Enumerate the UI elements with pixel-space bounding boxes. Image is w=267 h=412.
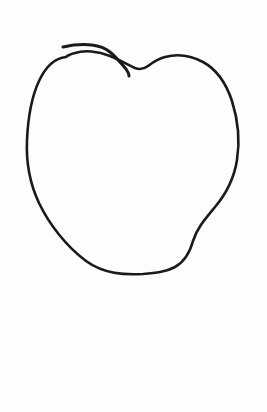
sketch-page: Hand-drawn apple outline sketch on white… bbox=[0, 0, 267, 412]
apple-outline-sketch bbox=[0, 0, 267, 412]
stem-mark-stroke bbox=[63, 45, 129, 76]
apple-body-outline-stroke bbox=[27, 51, 239, 274]
